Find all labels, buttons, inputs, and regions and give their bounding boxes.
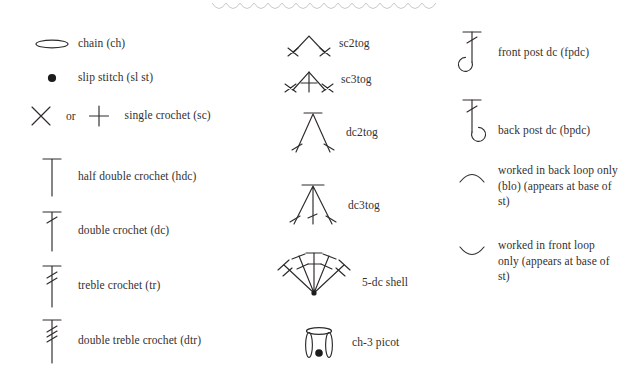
legend-label: slip stitch (sl st) [78, 70, 153, 86]
legend-row-slip-stitch: slip stitch (sl st) [26, 67, 153, 89]
legend-label: chain (ch) [78, 36, 125, 52]
double-crochet-icon [26, 208, 78, 254]
legend-label: single crochet (sc) [125, 108, 211, 124]
legend-label: 5-dc shell [362, 275, 408, 291]
crochet-symbol-legend: chain (ch) slip stitch (sl st) or [0, 0, 623, 377]
legend-row-half-double-crochet: half double crochet (hdc) [26, 155, 196, 199]
five-dc-shell-icon [276, 243, 352, 299]
back-post-dc-icon [454, 96, 490, 148]
dc3tog-icon [286, 180, 340, 232]
front-post-dc-icon [454, 28, 490, 78]
legend-label: sc3tog [341, 72, 372, 88]
sc2tog-icon [285, 31, 333, 57]
legend-label: half double crochet (hdc) [78, 169, 196, 185]
legend-label: front post dc (fpdc) [498, 45, 589, 61]
legend-label: ch-3 picot [352, 335, 399, 351]
legend-label: dc2tog [346, 125, 378, 141]
legend-label: treble crochet (tr) [78, 278, 160, 294]
legend-row-chain: chain (ch) [26, 33, 125, 55]
legend-label: double treble crochet (dtr) [78, 333, 201, 349]
legend-label: back post dc (bpdc) [498, 123, 590, 139]
column-basic-stitches: chain (ch) slip stitch (sl st) or [0, 0, 280, 377]
legend-row-back-loop-only: worked in back loop only (blo) (appears … [454, 163, 618, 210]
legend-label: sc2tog [339, 36, 370, 52]
double-treble-crochet-icon [26, 316, 78, 366]
single-crochet-plus-icon [85, 103, 113, 129]
legend-row-five-dc-shell: 5-dc shell [276, 243, 408, 299]
legend-row-front-loop-only: worked in front loop only (appears at ba… [454, 238, 618, 285]
legend-row-sc3tog: sc3tog [282, 66, 372, 94]
ch3-picot-icon [298, 322, 342, 364]
back-loop-only-icon [454, 166, 490, 188]
half-double-crochet-icon [26, 155, 78, 199]
legend-row-sc2tog: sc2tog [285, 31, 370, 57]
legend-row-single-crochet: or single crochet (sc) [26, 103, 211, 129]
slip-stitch-dot-icon [26, 67, 78, 89]
single-crochet-x-icon [26, 103, 56, 129]
treble-crochet-icon [26, 262, 78, 310]
legend-row-treble-crochet: treble crochet (tr) [26, 262, 160, 310]
legend-row-ch3-picot: ch-3 picot [298, 322, 399, 364]
legend-label: double crochet (dc) [78, 223, 169, 239]
legend-row-dc2tog: dc2tog [288, 108, 378, 158]
dc2tog-icon [288, 108, 338, 158]
legend-row-double-treble-crochet: double treble crochet (dtr) [26, 316, 201, 366]
legend-row-back-post-dc: back post dc (bpdc) [454, 96, 590, 148]
column-post-stitches-and-loops: front post dc (fpdc) back post dc (bpdc) [440, 0, 623, 377]
legend-label: worked in front loop only (appears at ba… [498, 238, 618, 285]
front-loop-only-icon [454, 241, 490, 263]
legend-label: dc3tog [348, 198, 380, 214]
connector-or-label: or [66, 110, 76, 122]
legend-row-dc3tog: dc3tog [286, 180, 380, 232]
legend-row-front-post-dc: front post dc (fpdc) [454, 28, 589, 78]
legend-label: worked in back loop only (blo) (appears … [498, 163, 618, 210]
column-decreases-and-clusters: sc2tog sc3tog [280, 0, 440, 377]
legend-row-double-crochet: double crochet (dc) [26, 208, 169, 254]
chain-oval-icon [26, 33, 78, 55]
sc3tog-icon [282, 66, 336, 94]
